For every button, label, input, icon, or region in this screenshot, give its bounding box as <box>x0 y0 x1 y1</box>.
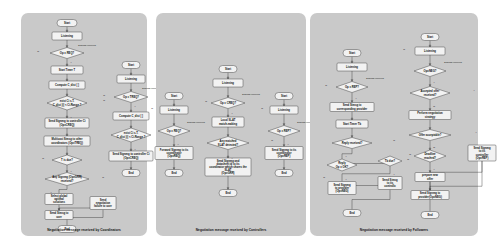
flow-edge-label: Y <box>70 61 72 64</box>
flow-edge-label: Y <box>433 168 435 171</box>
flow-node-process: Listening <box>117 75 145 83</box>
flow-node-label: Listening <box>424 49 436 53</box>
flow-node-end: End <box>421 212 439 219</box>
flow-node-label: Reply received? <box>342 141 363 145</box>
flow-node-end: End <box>122 170 140 177</box>
flow-node-label: Listening <box>168 108 180 112</box>
flow-edge-label: Y <box>134 105 136 108</box>
panel-caption-followers: Negotiation message received by Follower… <box>310 228 478 232</box>
flow-node-label: Op = REP? <box>277 129 291 133</box>
flow-node-start: Start <box>57 20 77 27</box>
panel-caption-coordinators: Negotiation message received by Coordina… <box>21 228 147 232</box>
flow-node-process: Listening <box>160 106 188 114</box>
flow-edge-label: N <box>433 146 435 149</box>
flow-edge-label: N <box>325 84 327 87</box>
flow-node-process: Sendnegotiationfailure to user <box>90 197 116 210</box>
flow-node-start: Start <box>165 93 183 100</box>
flow-edge-label: Signmg received <box>444 61 462 64</box>
flow-edge-label: Y <box>287 143 289 146</box>
flow-node-decision: exist Ci s.T.C_dist [i] < Ci.Range ? <box>47 96 87 110</box>
flow-node-end: End <box>343 210 361 217</box>
flow-node-label: Compute C_dist [ ] <box>55 83 79 87</box>
flow-node-start: Start <box>421 34 439 41</box>
flow-node-process: Send Signmg toprovider(Op=NEG) <box>411 191 449 200</box>
flow-edge-label: Y <box>433 81 435 84</box>
flow-node-label: End <box>349 211 354 215</box>
flow-node-decision: ReplyOp = OK? <box>327 159 357 171</box>
flow-node-start: Start <box>343 50 361 57</box>
flow-node-label: Deadlinereached? <box>424 152 436 159</box>
flow-node-decision: Offer acceptable? <box>409 130 451 141</box>
flow-node-start: Start <box>275 93 293 100</box>
flow-node-label: End <box>128 171 133 175</box>
flow-node-label: Op = REP? <box>345 85 359 89</box>
flow-node-label: Send Signmgto provider(Op=NEG) <box>333 183 351 193</box>
flow-node-label: Listening <box>222 81 234 85</box>
flow-node-label: Start <box>427 35 433 39</box>
flow-node-label: Local SLATmatch-making <box>219 118 238 125</box>
panel-coordinators: StartListeningOp = REQ?Start Timer TComp… <box>21 13 147 236</box>
flow-node-process: Compute C_dist [ ] <box>113 112 149 120</box>
flow-connector <box>59 186 67 194</box>
flow-edge-label: Y <box>355 97 357 100</box>
flow-node-end: End <box>165 170 183 177</box>
flow-connector <box>342 149 352 160</box>
flow-node-label: End <box>171 171 176 175</box>
flow-edge-label: N <box>42 157 44 160</box>
flow-edge-label: N <box>103 99 105 102</box>
flow-edge-label: Y <box>345 178 347 181</box>
flow-edge-label: N <box>433 105 435 108</box>
flow-edge-label: Signmg received <box>366 77 384 80</box>
flow-node-label: End <box>427 213 432 217</box>
flow-edge-label: Y <box>345 155 347 158</box>
flow-connector <box>430 161 482 212</box>
flow-node-decision: Op = REP? <box>268 126 300 137</box>
flow-edge-label: N <box>393 139 395 142</box>
figure-canvas: StartListeningOp = REQ?Start Timer TComp… <box>0 0 498 244</box>
flow-edge-label: N <box>403 48 405 51</box>
flow-node-label: Start <box>225 67 231 71</box>
flow-node-label: Multicast Simsg to othercoordinators (Op… <box>51 137 83 144</box>
flow-node-label: Start <box>171 94 177 98</box>
flow-node-label: Op = CREQ? <box>220 101 237 105</box>
flow-edge-label: Signmg received <box>242 93 260 96</box>
flow-node-decision: Accepted offerreceived? <box>410 87 450 100</box>
flow-node-process: Select globaloptimalsolutions <box>45 194 73 205</box>
flow-node-label: Tb due? <box>385 159 396 163</box>
flow-node-label: Op = REQ? <box>167 129 182 133</box>
flow-node-process: Listening <box>52 32 82 40</box>
flow-node-process: Start Timer Tb <box>336 120 368 128</box>
flow-node-start: Start <box>122 62 140 69</box>
flow-node-process: Compute C_dist [ ] <box>49 81 85 89</box>
flow-node-process: Send Signmgto provider(Op=NEG) <box>328 182 356 195</box>
flowchart-controllers: StartListeningOp = REQ?Forward Signmg to… <box>156 13 306 236</box>
panel-followers: StartListeningOp = REP?Send Simsg tocorr… <box>310 13 478 236</box>
flow-node-label: Listening <box>278 108 290 112</box>
flow-node-end: End <box>219 190 237 197</box>
flow-node-label: Listening <box>125 77 137 81</box>
flow-edge-label: Signmg received <box>78 44 96 47</box>
flow-node-decision: Op=NEG? <box>414 66 446 77</box>
flow-node-process: Listening <box>337 63 367 71</box>
flow-node-process: prepare newoffer <box>415 173 445 182</box>
flow-node-label: T is due? <box>61 158 73 162</box>
flow-node-label: Start Timer T <box>59 68 76 72</box>
flow-node-start: Start <box>219 66 237 73</box>
flow-node-decision: Op = CREQ? <box>211 98 245 109</box>
flow-node-label: Start <box>349 51 355 55</box>
flow-edge-label: Y <box>134 148 136 151</box>
flow-node-process: Local SLATmatch-making <box>212 117 244 127</box>
flow-node-label: Start <box>128 63 134 67</box>
flow-edge-label: Y <box>473 89 475 92</box>
panel-caption-controllers: Negotiation message received by Controll… <box>156 228 306 232</box>
flow-node-decision: Reply received? <box>332 138 372 149</box>
flow-node-decision: T is due? <box>52 155 82 165</box>
flow-edge-label: N <box>409 153 411 156</box>
flowchart-followers: StartListeningOp = REP?Send Simsg tocorr… <box>310 13 478 236</box>
flow-node-decision: Any matchedSLAT detected? <box>207 137 249 150</box>
flow-node-label: Start <box>281 94 287 98</box>
flow-node-decision: Tb due? <box>378 156 402 166</box>
flow-node-process: Listening <box>415 47 445 55</box>
flow-node-process: Listening <box>213 79 243 87</box>
flow-node-label: Send Signmg toprovider(Op=NEG) <box>418 191 442 198</box>
